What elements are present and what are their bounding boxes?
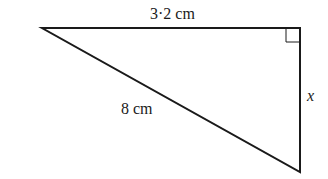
right-triangle bbox=[42, 28, 300, 172]
right-side-label: x bbox=[307, 88, 314, 104]
top-side-label: 3·2 cm bbox=[150, 6, 195, 22]
triangle-figure bbox=[0, 0, 328, 179]
hypotenuse-label: 8 cm bbox=[121, 101, 153, 117]
right-angle-marker bbox=[286, 28, 300, 42]
